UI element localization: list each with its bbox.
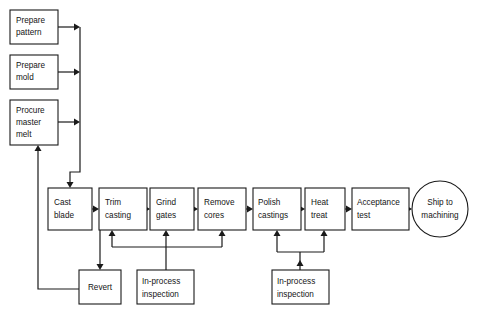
node-polish-castings-shape[interactable] — [253, 188, 301, 230]
arrowhead-acceptance-test-in — [346, 206, 352, 213]
edge-bus-to-cast-blade — [70, 27, 80, 182]
connector-layer — [35, 24, 413, 290]
node-polish-castings-line-1: castings — [258, 211, 288, 220]
node-acceptance-test-shape[interactable] — [352, 188, 409, 230]
node-in-process-inspection-left-line-0: In-process — [142, 277, 180, 286]
node-trim-casting-line-1: casting — [105, 211, 131, 220]
node-prepare-pattern-line-1: pattern — [16, 28, 42, 37]
arrowhead-prepare-pattern — [74, 24, 80, 31]
node-in-process-inspection-right-line-0: In-process — [277, 277, 315, 286]
node-heat-treat[interactable]: Heat treat — [305, 188, 345, 230]
node-polish-castings-line-0: Polish — [258, 198, 281, 207]
node-ship-to-machining-shape[interactable] — [412, 181, 468, 237]
arrowhead-trim-casting-inspect — [109, 230, 116, 236]
node-polish-castings[interactable]: Polish castings — [253, 188, 301, 230]
node-remove-cores-line-0: Remove — [204, 198, 235, 207]
node-revert[interactable]: Revert — [79, 270, 121, 304]
arrowhead-procure-master-melt — [74, 119, 80, 126]
node-acceptance-test[interactable]: Acceptance test — [352, 188, 409, 230]
arrowhead-grind-gates-inspect — [163, 230, 170, 236]
node-heat-treat-line-0: Heat — [311, 198, 329, 207]
node-heat-treat-line-1: treat — [311, 211, 328, 220]
node-grind-gates-line-1: gates — [156, 211, 176, 220]
node-revert-line-0: Revert — [88, 283, 113, 292]
node-trim-casting-line-0: Trim — [105, 198, 121, 207]
node-acceptance-test-line-0: Acceptance — [357, 198, 400, 207]
node-prepare-pattern[interactable]: Prepare pattern — [10, 10, 58, 44]
node-trim-casting[interactable]: Trim casting — [99, 188, 147, 230]
node-in-process-inspection-right-line-1: inspection — [277, 290, 314, 299]
arrowhead-polish-castings-inspect — [274, 230, 281, 236]
node-procure-master-melt-line-1: master — [16, 118, 41, 127]
arrowhead-prepare-mold — [74, 69, 80, 76]
arrowhead-revert-in — [97, 264, 104, 270]
arrowhead-procure-master-melt-in — [35, 145, 42, 151]
arrowhead-inspection-right-stem — [297, 260, 304, 266]
node-trim-casting-shape[interactable] — [99, 188, 147, 230]
node-remove-cores-shape[interactable] — [198, 188, 246, 230]
node-cast-blade-line-0: Cast — [54, 198, 72, 207]
node-prepare-mold-shape[interactable] — [10, 55, 58, 89]
node-grind-gates-line-0: Grind — [156, 198, 176, 207]
node-grind-gates[interactable]: Grind gates — [150, 188, 194, 230]
node-heat-treat-shape[interactable] — [305, 188, 345, 230]
arrowhead-polish-castings-in — [247, 206, 253, 213]
node-grind-gates-shape[interactable] — [150, 188, 194, 230]
node-in-process-inspection-left[interactable]: In-process inspection — [137, 270, 194, 304]
node-remove-cores-line-1: cores — [204, 211, 224, 220]
node-prepare-mold[interactable]: Prepare mold — [10, 55, 58, 89]
node-ship-to-machining-line-0: Ship to — [427, 198, 453, 207]
arrowhead-heat-treat-inspect — [321, 230, 328, 236]
arrowhead-cast-blade-in — [67, 182, 74, 188]
node-procure-master-melt-line-0: Procure — [16, 106, 45, 115]
arrowhead-remove-cores-inspect — [219, 230, 226, 236]
process-flow-diagram: Prepare pattern Prepare mold Procure mas… — [0, 0, 480, 317]
node-ship-to-machining-line-1: machining — [421, 211, 459, 220]
node-prepare-pattern-line-0: Prepare — [16, 16, 46, 25]
node-in-process-inspection-left-line-1: inspection — [142, 290, 179, 299]
node-procure-master-melt[interactable]: Procure master melt — [10, 100, 58, 145]
node-cast-blade-shape[interactable] — [48, 188, 92, 230]
node-prepare-mold-line-0: Prepare — [16, 61, 46, 70]
node-cast-blade[interactable]: Cast blade — [48, 188, 92, 230]
arrowhead-trim-casting-in — [93, 206, 99, 213]
node-prepare-mold-line-1: mold — [16, 73, 34, 82]
node-cast-blade-line-1: blade — [54, 211, 74, 220]
node-in-process-inspection-right[interactable]: In-process inspection — [272, 270, 329, 304]
node-procure-master-melt-line-2: melt — [16, 130, 32, 139]
node-ship-to-machining[interactable]: Ship to machining — [412, 181, 468, 237]
node-remove-cores[interactable]: Remove cores — [198, 188, 246, 230]
node-prepare-pattern-shape[interactable] — [10, 10, 58, 44]
node-acceptance-test-line-1: test — [357, 211, 371, 220]
flowchart-canvas: Prepare pattern Prepare mold Procure mas… — [0, 0, 480, 317]
